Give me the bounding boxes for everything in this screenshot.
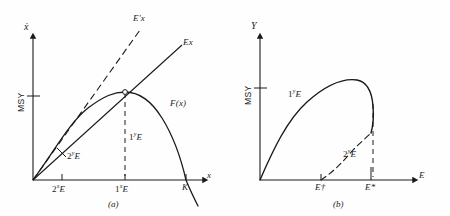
panel-a-plot [0, 0, 225, 216]
annotation-equilibrium-low: 2yE [67, 150, 80, 161]
panel-b-msy-label: MSY [243, 85, 253, 105]
yield-curve-stable-branch [260, 80, 373, 180]
effort-line-ex-prime [33, 30, 140, 180]
equilibrium-point-high [123, 90, 128, 95]
panel-a-x-axis-label: x [207, 171, 211, 180]
label-effort-line-ex: Ex [183, 38, 193, 47]
panel-b-xtick-label-Estar: E* [365, 183, 375, 192]
effort-line-ex [33, 45, 182, 180]
panel-b-caption: (b) [333, 199, 344, 209]
figure-container: ẋ MSY x E′x Ex F(x) 1yE 2yE 2xE 1xE K (… [0, 0, 450, 216]
panel-b-xtick-label-Edagger: E† [315, 183, 325, 192]
panel-a: ẋ MSY x E′x Ex F(x) 1yE 2yE 2xE 1xE K (… [0, 0, 225, 216]
panel-b-plot [225, 0, 450, 216]
panel-a-msy-label: MSY [16, 92, 26, 112]
panel-b-y-axis-label: Y [251, 21, 257, 31]
label-stable-branch: 1yE [288, 88, 301, 99]
panel-a-xtick-label-1xE: 1xE [115, 183, 128, 194]
label-effort-line-ex-prime: E′x [133, 14, 145, 23]
label-unstable-branch: 2yE [343, 148, 356, 159]
panel-a-y-axis-label: ẋ [24, 22, 28, 32]
panel-b-x-axis-label: E [419, 171, 425, 180]
annotation-equilibrium-high: 1yE [129, 131, 142, 142]
panel-a-xtick-label-K: K [182, 183, 188, 192]
label-growth-curve-fx: F(x) [170, 99, 186, 108]
equilibrium-marker-low [57, 148, 66, 157]
panel-b: Y MSY E 1yE 2yE E† E* (b) [225, 0, 450, 216]
panel-a-caption: (a) [108, 199, 119, 209]
panel-a-xtick-label-2xE: 2xE [52, 183, 65, 194]
